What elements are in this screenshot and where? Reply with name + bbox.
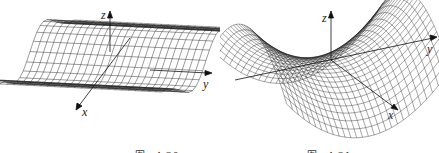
y-axis-label: y [427, 43, 432, 55]
figure-4-20: z y x 图4.20 [0, 0, 220, 153]
y-axis-arrow-icon [430, 35, 437, 41]
x-axis [331, 60, 395, 108]
wave-surface-plot [0, 0, 220, 153]
z-axis-arrow-icon [108, 11, 113, 18]
caption-prefix: 图 [135, 150, 146, 153]
y-axis-arrow-icon [205, 71, 212, 76]
figure-caption: 图4.20 [120, 136, 179, 153]
saddle-surface-plot [220, 0, 439, 153]
figure-caption: 图4.21 [292, 136, 351, 153]
caption-number: 4.21 [327, 150, 351, 153]
caption-prefix: 图 [307, 150, 318, 153]
caption-number: 4.20 [155, 150, 179, 153]
x-axis-label: x [82, 106, 87, 118]
z-axis-arrow-icon [329, 11, 334, 18]
z-axis-label: z [322, 12, 327, 24]
figure-4-21: z y x 图4.21 [220, 0, 439, 153]
y-axis-label: y [203, 78, 208, 90]
x-axis [78, 38, 130, 107]
x-axis-label: x [388, 109, 393, 121]
z-axis-label: z [101, 9, 106, 21]
